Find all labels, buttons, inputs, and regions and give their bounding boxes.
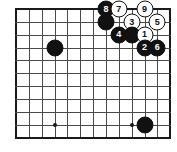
stone-black[interactable]: [136, 116, 153, 133]
stone-move-number: 2: [142, 43, 147, 52]
grid-line-horizontal: [15, 137, 171, 139]
stone-move-number: 3: [129, 17, 134, 26]
stone-black[interactable]: [46, 39, 63, 56]
grid-line-horizontal: [15, 22, 171, 23]
stone-move-number: 9: [142, 4, 147, 13]
board-grid: 879354126: [0, 0, 177, 152]
grid-line-horizontal: [15, 86, 171, 87]
stone-move-number: 8: [103, 4, 108, 13]
stone-move-number: 6: [155, 43, 160, 52]
stone-white-move-5[interactable]: 5: [149, 13, 166, 30]
grid-line-horizontal: [15, 60, 171, 61]
grid-line-horizontal: [15, 112, 171, 113]
stone-move-number: 5: [155, 17, 160, 26]
star-point: [130, 123, 134, 127]
stone-move-number: 4: [116, 30, 121, 39]
stone-move-number: 7: [116, 4, 121, 13]
grid-line-horizontal: [15, 73, 171, 74]
stone-black-move-6[interactable]: 6: [149, 39, 166, 56]
go-board-diagram: 879354126: [0, 0, 177, 152]
stone-move-number: 1: [142, 30, 147, 39]
grid-line-horizontal: [15, 99, 171, 100]
star-point: [53, 123, 57, 127]
